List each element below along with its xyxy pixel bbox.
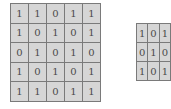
matrix-cell: 0	[65, 23, 83, 43]
matrix-cell: 1	[47, 62, 65, 82]
matrix-cell: 1	[11, 62, 29, 82]
matrix-cell: 1	[11, 4, 29, 24]
matrix-row: 1 0 1	[137, 24, 171, 43]
matrix-cell: 0	[159, 43, 170, 62]
matrix-cell: 0	[29, 62, 47, 82]
matrix-cell: 0	[47, 4, 65, 24]
matrix-cell: 1	[83, 4, 101, 24]
matrix-row: 1 1 0 1 1	[11, 82, 101, 102]
matrix-cell: 1	[65, 43, 83, 63]
matrix-cell: 1	[137, 62, 148, 81]
matrix-row: 1 0 1 0 1	[11, 23, 101, 43]
matrix-cell: 1	[137, 24, 148, 43]
matrix-cell: 0	[148, 24, 159, 43]
matrix-cell: 1	[83, 23, 101, 43]
matrix-cell: 0	[47, 43, 65, 63]
matrix-cell: 0	[47, 82, 65, 102]
kernel-matrix: 1 0 1 0 1 0 1 0 1	[136, 23, 171, 81]
input-matrix: 1 1 0 1 1 1 0 1 0 1 0 1 0 1 0 1 0 1 0 1	[10, 3, 101, 102]
matrix-cell: 1	[83, 82, 101, 102]
matrix-cell: 0	[65, 62, 83, 82]
matrix-row: 0 1 0 1 0	[11, 43, 101, 63]
matrix-cell: 1	[65, 4, 83, 24]
matrix-row: 0 1 0	[137, 43, 171, 62]
matrix-cell: 1	[11, 23, 29, 43]
matrix-cell: 0	[11, 43, 29, 63]
matrix-cell: 1	[159, 62, 170, 81]
matrix-cell: 1	[29, 82, 47, 102]
matrix-cell: 1	[29, 4, 47, 24]
matrix-cell: 0	[29, 23, 47, 43]
matrix-row: 1 0 1	[137, 62, 171, 81]
matrix-cell: 0	[137, 43, 148, 62]
matrix-cell: 1	[159, 24, 170, 43]
matrix-cell: 1	[29, 43, 47, 63]
matrix-cell: 1	[83, 62, 101, 82]
matrix-cell: 0	[83, 43, 101, 63]
matrix-row: 1 0 1 0 1	[11, 62, 101, 82]
matrix-cell: 1	[148, 43, 159, 62]
matrix-cell: 1	[11, 82, 29, 102]
matrix-cell: 1	[47, 23, 65, 43]
matrix-cell: 0	[148, 62, 159, 81]
matrix-cell: 1	[65, 82, 83, 102]
matrix-row: 1 1 0 1 1	[11, 4, 101, 24]
